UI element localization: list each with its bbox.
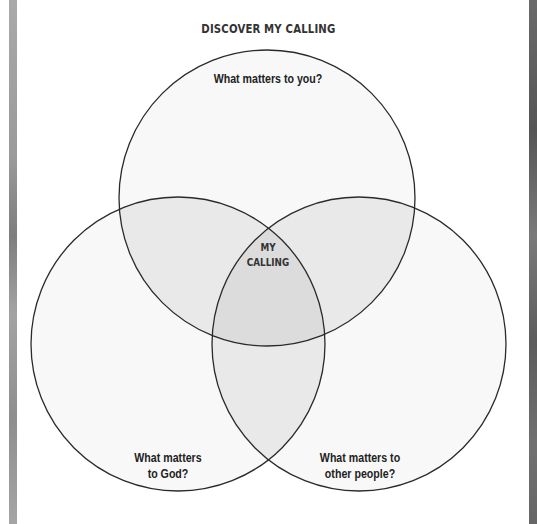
label-what-matters-to-god: What matters to God? bbox=[117, 450, 219, 482]
label-what-matters-to-you: What matters to you? bbox=[183, 71, 353, 87]
label-what-matters-to-others: What matters to other people? bbox=[309, 450, 411, 482]
worksheet-page: DISCOVER MY CALLING What matters bbox=[0, 0, 537, 524]
label-my-calling: MY CALLING bbox=[236, 240, 300, 270]
